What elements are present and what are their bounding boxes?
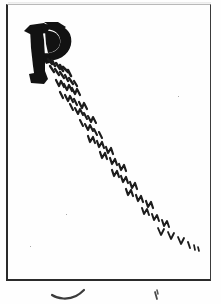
ink-artwork-layer — [0, 0, 221, 304]
cursive-script-line — [48, 59, 199, 251]
below-frame-glyph-tops — [52, 290, 158, 299]
manuscript-page: P ~ ' — [0, 0, 221, 304]
scan-speckle — [66, 214, 67, 215]
scan-speckle — [30, 246, 31, 247]
scan-speckle — [178, 96, 179, 97]
